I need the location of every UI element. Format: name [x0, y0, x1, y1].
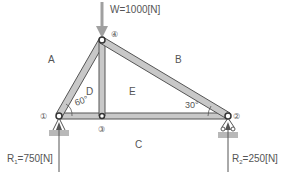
reaction-label-1: R1=750[N] [7, 153, 53, 165]
joint-3 [100, 114, 105, 119]
region-label-b: B [175, 54, 182, 65]
joint-4 [99, 37, 105, 43]
reaction-arrow-2 [225, 122, 231, 172]
node-label-1: ① [40, 112, 47, 121]
member-4-3 [99, 40, 105, 116]
node-label-3: ③ [98, 125, 105, 134]
load-arrow [96, 2, 108, 38]
node-label-2: ② [233, 112, 240, 121]
truss-diagram: W=1000[N] R1=750[N] R2=250[N] [0, 0, 284, 177]
region-label-a: A [48, 54, 55, 65]
region-label-d: D [86, 86, 93, 97]
node-label-4: ④ [111, 30, 118, 39]
region-label-e: E [129, 86, 136, 97]
reaction-label-2: R2=250[N] [232, 153, 278, 165]
angle-label-30: 30° [185, 100, 199, 110]
truss-members [56, 37, 230, 119]
region-label-c: C [135, 139, 142, 150]
reaction-arrow-1 [56, 122, 62, 172]
member-1-2 [59, 113, 228, 119]
load-label: W=1000[N] [110, 4, 161, 15]
